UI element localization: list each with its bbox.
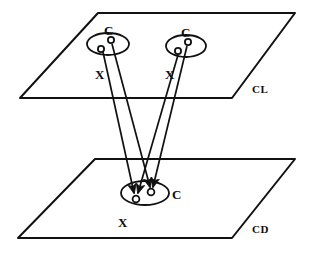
label-upper-left-c: C	[104, 24, 113, 37]
label-upper-right-x: X	[165, 68, 174, 81]
label-lower-c: C	[172, 188, 181, 201]
node-upper-right-x	[175, 48, 181, 54]
diagram-canvas: C X C X C X CL CD	[0, 0, 313, 257]
node-lower-c	[148, 189, 155, 196]
label-upper-left-x: X	[95, 68, 104, 81]
node-lower-x	[133, 196, 140, 203]
label-upper-right-c: C	[181, 26, 190, 39]
plane-correspondence-diagram	[0, 0, 313, 257]
label-lower-plane-cd: CD	[252, 224, 269, 235]
node-upper-left-x	[98, 46, 104, 52]
label-lower-x: X	[118, 216, 127, 229]
label-upper-plane-cl: CL	[252, 84, 268, 95]
